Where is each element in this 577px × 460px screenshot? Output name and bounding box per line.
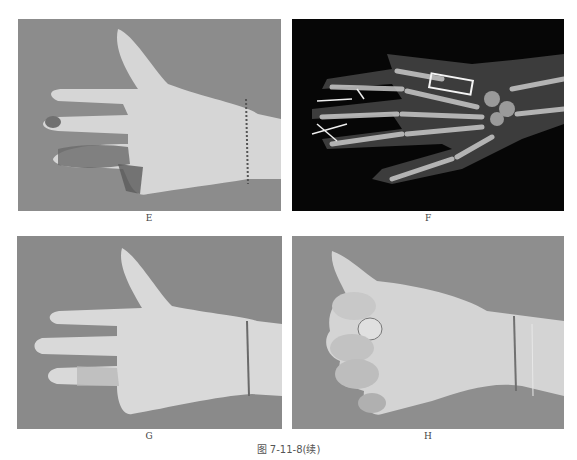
panel-g-label: G xyxy=(139,431,159,441)
panel-f-xray xyxy=(292,19,564,211)
panel-h-photo xyxy=(292,236,564,429)
panel-h-label: H xyxy=(418,431,438,441)
hand-fist-illustration xyxy=(292,236,564,429)
panel-e-label: E xyxy=(139,213,159,223)
hand-xray-illustration xyxy=(292,19,564,211)
figure-caption: 图 7-11-8(续) xyxy=(0,441,577,456)
panel-g-photo xyxy=(17,236,282,429)
hand-palm-healed-illustration xyxy=(17,236,282,429)
panel-e-photo xyxy=(18,19,281,211)
hand-palm-wounded-illustration xyxy=(18,19,281,211)
panel-f-label: F xyxy=(418,213,438,223)
